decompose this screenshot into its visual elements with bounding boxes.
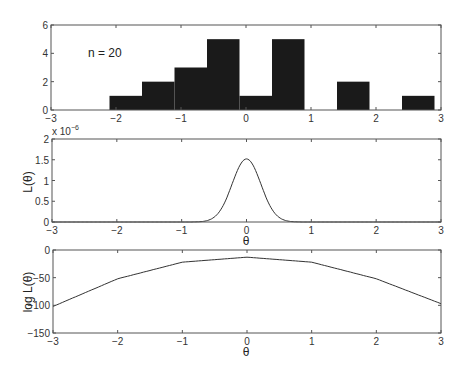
x-tick-label: −2 [110, 113, 122, 124]
y-tick-label: 0 [42, 105, 48, 116]
histogram-bar [110, 96, 143, 110]
x-axis-label-likelihood: θ [243, 234, 250, 248]
likelihood-panel: −3−2−1012300.511.52 [35, 134, 444, 236]
likelihood-curve [52, 159, 441, 222]
x-tick-label: −1 [176, 225, 188, 236]
chart-figure: −3−2−101230246 −3−2−1012300.511.52 −3−2−… [0, 0, 463, 373]
histogram-bar [272, 39, 305, 110]
y-tick-label: 0 [43, 217, 49, 228]
y-tick-label: −50 [33, 273, 50, 284]
histogram-bar [402, 96, 435, 110]
y-axis-label-log-likelihood: log L(θ) [21, 272, 35, 313]
y-tick-label: 0.5 [35, 196, 49, 207]
histogram-bar [207, 39, 240, 110]
x-tick-label: 1 [308, 113, 314, 124]
y-tick-label: 2 [42, 77, 48, 88]
exponent-label: x 10−6 [52, 124, 79, 137]
y-tick-label: 1 [43, 176, 49, 187]
x-tick-label: −2 [112, 336, 124, 347]
x-tick-label: 2 [374, 336, 380, 347]
x-tick-label: −1 [175, 113, 187, 124]
log-likelihood-panel: −3−2−10123−150−100−500 [27, 245, 444, 347]
x-tick-label: 2 [373, 113, 379, 124]
y-tick-label: 0 [44, 245, 50, 256]
histogram-bar [337, 82, 370, 110]
x-tick-label: 3 [438, 336, 444, 347]
x-tick-label: 3 [438, 113, 444, 124]
sample-size-annotation: n = 20 [88, 46, 122, 60]
y-axis-label-likelihood: L(θ) [21, 171, 35, 192]
x-tick-label: 0 [243, 113, 249, 124]
histogram-bar [142, 82, 175, 110]
histogram-bar [240, 96, 273, 110]
x-tick-label: 2 [373, 225, 379, 236]
y-tick-label: 4 [42, 48, 48, 59]
x-tick-label: 1 [309, 225, 315, 236]
log-likelihood-curve [53, 257, 441, 306]
x-axis-label-log-likelihood: θ [243, 345, 250, 359]
axes-box [52, 139, 441, 222]
y-tick-label: 1.5 [35, 155, 49, 166]
y-tick-label: −150 [27, 328, 50, 339]
x-tick-label: −1 [177, 336, 189, 347]
histogram-panel: −3−2−101230246 [42, 20, 444, 124]
y-tick-label: 6 [42, 20, 48, 31]
axes-box [53, 250, 441, 333]
y-tick-label: 2 [43, 134, 49, 145]
x-tick-label: −2 [111, 225, 123, 236]
x-tick-label: 3 [438, 225, 444, 236]
histogram-bar [175, 68, 208, 111]
x-tick-label: 1 [309, 336, 315, 347]
